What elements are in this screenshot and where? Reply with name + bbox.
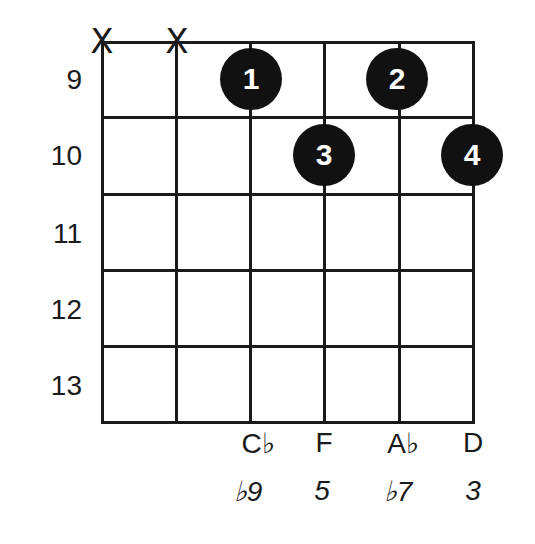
finger-dot-1: 1 <box>220 48 282 110</box>
finger-dot-3: 3 <box>293 124 355 186</box>
note-label: A♭ <box>387 427 419 460</box>
string-line <box>175 41 178 423</box>
interval-label: ♭7 <box>384 475 413 508</box>
note-label: D <box>463 427 483 459</box>
fret-label-10: 10 <box>30 140 82 172</box>
string-line <box>323 41 326 423</box>
fret-line <box>101 116 475 119</box>
interval-label: ♭9 <box>234 475 263 508</box>
mute-x-icon: X <box>90 24 113 58</box>
fret-line <box>101 193 475 196</box>
fret-label-11: 11 <box>30 218 82 250</box>
finger-dot-2: 2 <box>366 48 428 110</box>
fret-line <box>101 269 475 272</box>
fret-label-9: 9 <box>30 64 82 96</box>
note-label: F <box>315 427 332 459</box>
string-line <box>472 41 475 423</box>
interval-label: 3 <box>465 475 481 507</box>
string-line <box>101 41 104 423</box>
fret-label-12: 12 <box>30 294 82 326</box>
fret-line <box>101 41 475 44</box>
note-label: C♭ <box>241 427 274 460</box>
finger-dot-4: 4 <box>441 124 503 186</box>
interval-label: 5 <box>314 475 330 507</box>
fret-line <box>101 345 475 348</box>
fret-label-13: 13 <box>30 370 82 402</box>
fret-line <box>101 421 475 424</box>
mute-x-icon: X <box>165 24 188 58</box>
